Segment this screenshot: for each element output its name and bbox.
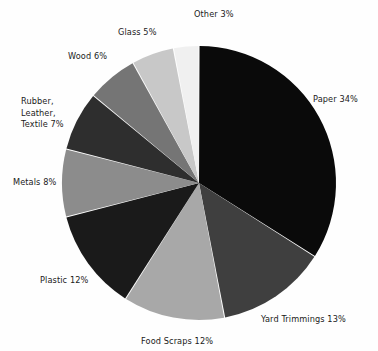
slice-label-rubber-leather-textile: Rubber, Leather, Textile 7%	[21, 96, 64, 131]
slice-label-plastic: Plastic 12%	[40, 275, 88, 287]
slice-label-yard-trimmings: Yard Trimmings 13%	[261, 314, 346, 326]
slice-label-other: Other 3%	[194, 9, 234, 21]
slice-label-metals: Metals 8%	[13, 177, 56, 189]
pie-chart-canvas	[0, 0, 378, 351]
pie-chart: Paper 34% Yard Trimmings 13% Food Scraps…	[0, 0, 378, 351]
slice-label-paper: Paper 34%	[313, 94, 358, 106]
slice-label-wood: Wood 6%	[68, 51, 107, 63]
pie-slice-group	[62, 46, 336, 320]
slice-label-glass: Glass 5%	[118, 27, 157, 39]
slice-label-food-scraps: Food Scraps 12%	[141, 336, 213, 348]
